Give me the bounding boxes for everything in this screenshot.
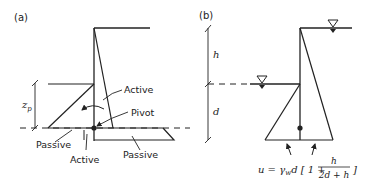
pivot-dot (91, 125, 96, 130)
panel-b-label: (b) (199, 10, 213, 21)
passive-right-leader (132, 136, 140, 150)
formula-arrow-right (312, 144, 315, 155)
left-pressure-line (265, 84, 300, 140)
d-label: d (213, 106, 219, 117)
water-level-icon-upper (328, 20, 338, 33)
pore-pressure-formula: u = γwd [ 1 + h 2d + h ] (258, 156, 357, 180)
retaining-wall-diagram: (a) zp Active Pivot Passive (0, 0, 380, 188)
svg-text:u = γwd [ 1 +: u = γwd [ 1 + (258, 164, 326, 177)
toe-dot (297, 125, 302, 130)
panel-b: (b) h d u = γwd [ 1 (199, 10, 357, 180)
water-level-icon-lower (257, 76, 267, 89)
passive-right-label: Passive (123, 149, 158, 160)
pivot-label: Pivot (131, 107, 155, 118)
svg-text:2d + h: 2d + h (318, 170, 350, 180)
active-lower-leader (86, 134, 87, 150)
passive-left-label: Passive (36, 139, 71, 150)
active-upper-label: Active (124, 84, 154, 95)
formula-arrow-left (287, 144, 291, 155)
active-lower-label: Active (70, 154, 100, 165)
zp-label: zp (21, 99, 32, 113)
rotation-arrow-icon (82, 106, 104, 110)
passive-lower-shape (94, 128, 174, 140)
passive-pressure-line (48, 84, 94, 128)
panel-a-label: (a) (14, 12, 28, 23)
svg-text:h: h (331, 156, 337, 166)
right-pressure-line (300, 28, 333, 140)
panel-a: (a) zp Active Pivot Passive (14, 12, 190, 165)
svg-text:]: ] (352, 164, 357, 175)
active-pressure-line (94, 28, 113, 128)
h-label: h (213, 49, 219, 60)
